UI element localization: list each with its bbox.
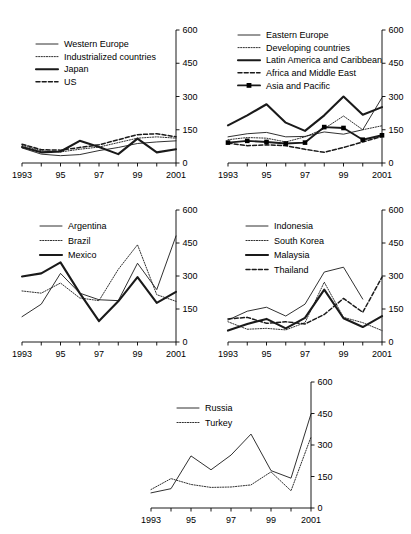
y-tick-label: 0 — [183, 158, 188, 168]
x-tick-label: 2001 — [372, 170, 392, 180]
y-tick-label: 450 — [389, 58, 404, 68]
legend-label: South Korea — [274, 236, 324, 246]
y-tick-label: 150 — [389, 304, 404, 314]
legend-label: Eastern Europe — [266, 30, 329, 40]
legend-swatch-marker — [247, 83, 252, 88]
panel-russia-turkey: 015030045060019939597992001RussiaTurkey — [103, 368, 353, 528]
legend-label: Japan — [64, 64, 89, 74]
y-tick-label: 600 — [389, 25, 404, 35]
series-marker — [380, 133, 385, 138]
y-tick-label: 0 — [183, 337, 188, 347]
x-tick-label: 2001 — [166, 170, 186, 180]
x-tick-label: 2001 — [301, 515, 321, 525]
x-tick-label: 95 — [55, 170, 65, 180]
y-tick-label: 600 — [318, 377, 333, 387]
y-tick-label: 450 — [183, 238, 198, 248]
panel-industrialized: 015030045060019939597992001Western Europ… — [0, 8, 205, 183]
x-tick-label: 99 — [266, 515, 276, 525]
series-line — [22, 236, 176, 317]
x-tick-label: 97 — [300, 349, 310, 359]
y-tick-label: 300 — [183, 92, 198, 102]
x-tick-label: 95 — [261, 349, 271, 359]
legend-label: Asia and Pacific — [266, 81, 331, 91]
series-marker — [360, 137, 365, 142]
y-tick-label: 150 — [183, 304, 198, 314]
x-tick-label: 97 — [226, 515, 236, 525]
panel-russia-turkey-plot: 015030045060019939597992001RussiaTurkey — [103, 368, 353, 528]
series-marker — [341, 126, 346, 131]
x-tick-label: 95 — [186, 515, 196, 525]
y-tick-label: 0 — [318, 503, 323, 513]
panel-asia: 015030045060019939597992001IndonesiaSout… — [206, 190, 411, 362]
y-tick-label: 150 — [318, 472, 333, 482]
series-marker — [303, 140, 308, 145]
panel-industrialized-plot: 015030045060019939597992001Western Europ… — [0, 8, 205, 183]
x-tick-label: 95 — [261, 170, 271, 180]
y-tick-label: 600 — [183, 25, 198, 35]
x-tick-label: 2001 — [372, 349, 392, 359]
legend-label: Turkey — [205, 418, 233, 428]
x-tick-label: 1993 — [12, 170, 32, 180]
x-tick-label: 97 — [94, 349, 104, 359]
x-tick-label: 95 — [55, 349, 65, 359]
x-tick-label: 97 — [94, 170, 104, 180]
legend-label: Malaysia — [274, 250, 310, 260]
series-marker — [245, 139, 250, 144]
panel-emerging-regions-plot: 015030045060019939597992001Eastern Europ… — [206, 8, 411, 183]
y-tick-label: 300 — [389, 92, 404, 102]
x-tick-label: 1993 — [218, 349, 238, 359]
legend-label: Brazil — [68, 236, 91, 246]
series-marker — [322, 125, 327, 130]
x-tick-label: 99 — [132, 349, 142, 359]
series-line — [22, 245, 176, 302]
series-line — [22, 262, 176, 321]
x-tick-label: 99 — [132, 170, 142, 180]
x-tick-label: 2001 — [166, 349, 186, 359]
y-tick-label: 150 — [183, 125, 198, 135]
x-tick-label: 1993 — [218, 170, 238, 180]
legend-label: Mexico — [68, 250, 97, 260]
panel-emerging-regions: 015030045060019939597992001Eastern Europ… — [206, 8, 411, 183]
legend-label: US — [64, 77, 77, 87]
legend-label: Argentina — [68, 221, 107, 231]
x-tick-label: 99 — [338, 349, 348, 359]
x-tick-label: 99 — [338, 170, 348, 180]
series-line — [228, 97, 382, 131]
y-tick-label: 600 — [389, 205, 404, 215]
legend-label: Western Europe — [64, 39, 129, 49]
y-tick-label: 600 — [183, 205, 198, 215]
y-tick-label: 300 — [389, 271, 404, 281]
legend-label: Russia — [205, 403, 233, 413]
y-tick-label: 0 — [389, 158, 394, 168]
panel-asia-plot: 015030045060019939597992001IndonesiaSout… — [206, 190, 411, 362]
series-marker — [283, 141, 288, 146]
series-marker — [226, 140, 231, 145]
legend-label: Indonesia — [274, 221, 313, 231]
legend-label: Thailand — [274, 265, 309, 275]
y-tick-label: 450 — [389, 238, 404, 248]
y-tick-label: 300 — [318, 440, 333, 450]
x-tick-label: 1993 — [12, 349, 32, 359]
panel-latin-america: 015030045060019939597992001ArgentinaBraz… — [0, 190, 205, 362]
y-tick-label: 150 — [389, 125, 404, 135]
legend-label: Latin America and Caribbean — [266, 55, 382, 65]
series-line — [22, 141, 176, 156]
legend-label: Developing countries — [266, 43, 351, 53]
legend-label: Africa and Middle East — [266, 68, 357, 78]
y-tick-label: 450 — [183, 58, 198, 68]
series-marker — [264, 140, 269, 145]
series-line — [228, 267, 363, 320]
panel-latin-america-plot: 015030045060019939597992001ArgentinaBraz… — [0, 190, 205, 362]
series-line — [22, 139, 176, 155]
y-tick-label: 0 — [389, 337, 394, 347]
legend-label: Industrialized countries — [64, 52, 157, 62]
x-tick-label: 97 — [300, 170, 310, 180]
x-tick-label: 1993 — [141, 515, 161, 525]
y-tick-label: 450 — [318, 409, 333, 419]
y-tick-label: 300 — [183, 271, 198, 281]
